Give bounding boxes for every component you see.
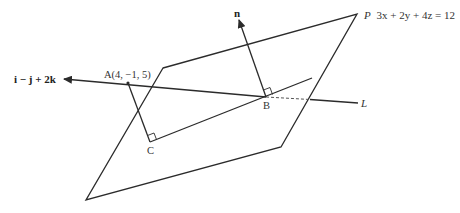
line-l-direction-arrow	[64, 79, 266, 97]
line-l-hidden-segment	[266, 97, 310, 100]
perpendicular-ac	[128, 83, 150, 142]
diagram-canvas: P 3x + 2y + 4z = 12 n i − j + 2k A(4, −1…	[0, 0, 460, 213]
plane-name: P	[363, 9, 371, 21]
point-b-label: B	[263, 100, 270, 111]
line-l-label: L	[360, 97, 367, 109]
plane-equation: 3x + 2y + 4z = 12	[376, 9, 455, 21]
direction-vector-label: i − j + 2k	[14, 73, 57, 85]
projected-line-cb	[150, 78, 312, 142]
point-c-label: C	[147, 145, 154, 156]
normal-vector-n	[239, 20, 266, 97]
point-a-dot	[126, 81, 129, 84]
point-a-label: A(4, −1, 5)	[104, 69, 151, 81]
plane-label: P 3x + 2y + 4z = 12	[363, 9, 455, 21]
line-l-segment	[310, 100, 358, 104]
normal-label: n	[234, 7, 240, 19]
plane-p	[86, 14, 357, 200]
